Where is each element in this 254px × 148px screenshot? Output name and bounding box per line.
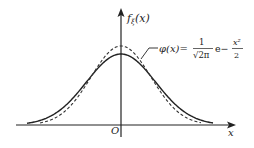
formula-exp-numerator: x² xyxy=(233,38,241,47)
solid-density-curve xyxy=(27,54,213,123)
origin-label: O xyxy=(111,125,119,136)
x-axis-label: x xyxy=(228,127,234,138)
diagram-canvas: fξ(x) O x φ(x)= 1 √2π e− x² 2 xyxy=(0,0,254,148)
formula-exp-denominator: 2 xyxy=(234,51,239,60)
formula-denominator: √2π xyxy=(193,50,210,60)
formula-numerator: 1 xyxy=(199,37,204,47)
annotation-leader-line xyxy=(141,48,158,59)
formula-prefix: φ(x)= xyxy=(159,43,188,54)
formula-exp: e− xyxy=(215,43,229,54)
y-axis-label: fξ(x) xyxy=(126,12,150,26)
normal-density-diagram: fξ(x) O x φ(x)= 1 √2π e− x² 2 xyxy=(0,0,254,148)
formula-annotation: φ(x)= 1 √2π e− x² 2 xyxy=(159,37,243,60)
